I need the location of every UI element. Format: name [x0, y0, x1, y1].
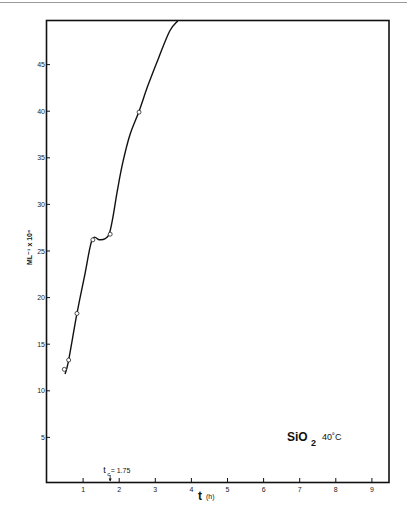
data-point [137, 110, 141, 114]
data-point [91, 238, 95, 242]
y-axis-ticks: 51015202530354045 [37, 61, 50, 441]
sample-label: SiO [287, 430, 308, 444]
annotation-arrow-head [109, 479, 112, 482]
curve-line [65, 21, 178, 374]
sample-subscript: 2 [311, 438, 316, 448]
chart: 123456789 51015202530354045 t (h) ML⁻¹ x… [0, 0, 407, 519]
x-tick-label: 7 [298, 486, 302, 493]
x-axis-ticks: 123456789 [81, 478, 374, 493]
data-point [62, 367, 66, 371]
series-group [62, 21, 177, 374]
y-tick-label: 40 [37, 108, 45, 115]
plot-frame [47, 21, 390, 483]
x-tick-label: 9 [370, 486, 374, 493]
x-tick-label: 6 [262, 486, 266, 493]
annotation-value: = 1.75 [111, 467, 131, 474]
y-tick-label: 35 [37, 154, 45, 161]
temperature-label: 40˚C [322, 432, 342, 442]
y-tick-label: 45 [37, 61, 45, 68]
y-tick-label: 20 [37, 294, 45, 301]
x-axis-title: t [198, 489, 202, 503]
x-tick-label: 5 [226, 486, 230, 493]
y-tick-label: 25 [37, 248, 45, 255]
legend-text: SiO 2 40˚C [287, 430, 342, 448]
x-tick-label: 8 [334, 486, 338, 493]
x-tick-label: 3 [153, 486, 157, 493]
x-tick-label: 2 [117, 486, 121, 493]
y-tick-label: 10 [37, 387, 45, 394]
x-tick-label: 4 [189, 486, 193, 493]
y-tick-label: 5 [41, 434, 45, 441]
x-axis-title-unit: (h) [206, 493, 215, 501]
data-point [75, 311, 79, 315]
y-tick-label: 30 [37, 201, 45, 208]
y-tick-label: 15 [37, 341, 45, 348]
y-axis-title: ML⁻¹ x 10⁶ [26, 230, 33, 265]
x-tick-label: 1 [81, 486, 85, 493]
tc-annotation: tc = 1.75 [103, 465, 130, 482]
annotation-label: t [103, 465, 106, 475]
data-point [108, 232, 112, 236]
data-point [67, 358, 71, 362]
